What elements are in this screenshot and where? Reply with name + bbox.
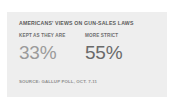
stat-label-kept-as-they-are: KEPT AS THEY ARE	[19, 32, 81, 40]
page-title: AMERICANS' VIEWS ON GUN-SALES LAWS	[19, 20, 134, 26]
stat-block-kept-as-they-are: KEPT AS THEY ARE 33%	[19, 32, 81, 64]
stat-label-more-strict: MORE STRICT	[85, 32, 147, 40]
stat-value-more-strict: 55%	[85, 42, 147, 64]
chart-source: SOURCE: GALLUP POLL, OCT. 7-11	[19, 79, 97, 84]
stats-row: KEPT AS THEY ARE 33% MORE STRICT 55%	[19, 32, 159, 74]
stat-block-more-strict: MORE STRICT 55%	[85, 32, 147, 64]
infographic-card: AMERICANS' VIEWS ON GUN-SALES LAWS KEPT …	[7, 12, 167, 97]
stat-value-kept-as-they-are: 33%	[19, 42, 81, 64]
